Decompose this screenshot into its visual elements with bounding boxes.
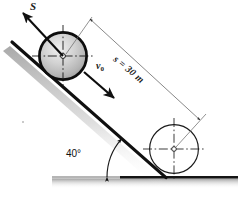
distance-dimension-line bbox=[90, 19, 200, 120]
incline-surface-line bbox=[12, 42, 166, 178]
initial-velocity-label: v0 bbox=[96, 61, 104, 73]
velocity-arrow bbox=[84, 72, 114, 98]
ground-shadow-band bbox=[52, 178, 238, 188]
angle-label: 40° bbox=[66, 149, 81, 159]
displacement-label: S bbox=[30, 1, 36, 12]
extension-line-lower bbox=[176, 114, 206, 147]
wheel-lower bbox=[143, 118, 205, 181]
paper-speck bbox=[22, 121, 24, 123]
diagram-canvas bbox=[0, 0, 244, 198]
velocity-subscript: 0 bbox=[100, 65, 104, 73]
physics-diagram-figure: S v0 s = 30 m 40° bbox=[0, 0, 244, 198]
